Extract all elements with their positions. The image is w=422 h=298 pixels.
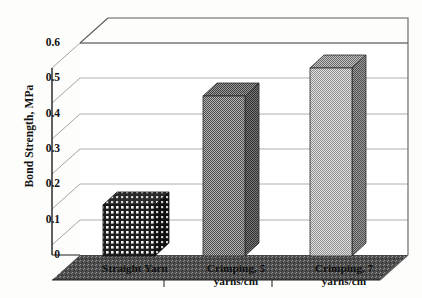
- bar-chart: Bond Strength, MPa 0.6 0.5 0.4 0.3 0.2 0…: [0, 0, 422, 298]
- bar-crimping-7[interactable]: [310, 55, 366, 256]
- bar-crimping-5[interactable]: [203, 83, 259, 256]
- category-line: yarns/cm: [176, 275, 296, 288]
- category-line: Crimping, 7: [284, 262, 404, 275]
- bar-straight-yarn[interactable]: [103, 192, 169, 256]
- category-line: yarns/cm: [284, 275, 404, 288]
- x-category-label-1: Crimping, 5 yarns/cm: [176, 262, 296, 289]
- x-category-label-2: Crimping, 7 yarns/cm: [284, 262, 404, 289]
- category-line: Crimping, 5: [176, 262, 296, 275]
- plot-area: Straight Yarn Crimping, 5 yarns/cm Crimp…: [0, 0, 422, 298]
- depth-edges: [52, 43, 80, 245]
